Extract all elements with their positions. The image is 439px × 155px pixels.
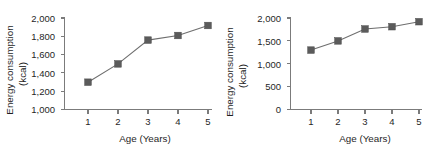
x-tick-label: 4 (175, 116, 180, 127)
y-tick-label: 500 (265, 81, 281, 92)
data-point-marker (115, 61, 122, 68)
y-tick-label: 1,800 (31, 31, 55, 42)
chart-panel-right: Energy consumption (kcal) 2,000 1,500 1,… (219, 0, 439, 155)
y-tick-label: 0 (276, 104, 281, 115)
y-tick-label: 1,200 (31, 86, 55, 97)
y-axis-title-line1: Energy consumption (4, 25, 15, 114)
data-point-marker (416, 18, 423, 25)
data-point-marker (335, 38, 342, 45)
figure-two-panel-line-charts: Energy consumption (kcal) 2,000 1,800 1,… (0, 0, 439, 155)
x-tick-label: 2 (115, 116, 120, 127)
x-axis-title: Age (Years) (119, 133, 170, 144)
y-axis-title-line1: Energy consumption (224, 27, 235, 116)
x-tick-label: 2 (335, 116, 340, 127)
data-point-marker (175, 32, 182, 39)
chart-panel-left: Energy consumption (kcal) 2,000 1,800 1,… (0, 0, 220, 155)
y-axis-title-line2: (kcal) (237, 64, 248, 88)
x-tick-label: 1 (85, 116, 90, 127)
x-tick-label: 1 (308, 116, 313, 127)
data-point-marker (85, 79, 92, 86)
data-point-marker (145, 37, 152, 44)
line-chart-truncated-axis: Energy consumption (kcal) 2,000 1,800 1,… (0, 0, 220, 155)
data-point-marker (362, 26, 369, 33)
x-tick-label: 3 (362, 116, 367, 127)
y-tick-label: 1,400 (31, 68, 55, 79)
y-tick-label: 1,600 (31, 49, 55, 60)
y-tick-label: 1,000 (31, 104, 55, 115)
y-axis-title-line2: (kcal) (17, 62, 28, 86)
y-tick-label: 2,000 (31, 13, 55, 24)
data-point-marker (308, 47, 315, 54)
x-tick-label: 5 (416, 116, 421, 127)
y-tick-label: 1,000 (257, 59, 281, 70)
y-tick-label: 1,500 (257, 36, 281, 47)
x-axis-title: Age (Years) (339, 133, 390, 144)
data-point-marker (205, 22, 212, 29)
line-chart-full-axis: Energy consumption (kcal) 2,000 1,500 1,… (219, 0, 439, 155)
series-line (88, 26, 208, 83)
x-tick-label: 5 (205, 116, 210, 127)
data-point-marker (389, 23, 396, 30)
y-tick-label: 2,000 (257, 13, 281, 24)
x-tick-label: 4 (389, 116, 394, 127)
x-tick-label: 3 (145, 116, 150, 127)
